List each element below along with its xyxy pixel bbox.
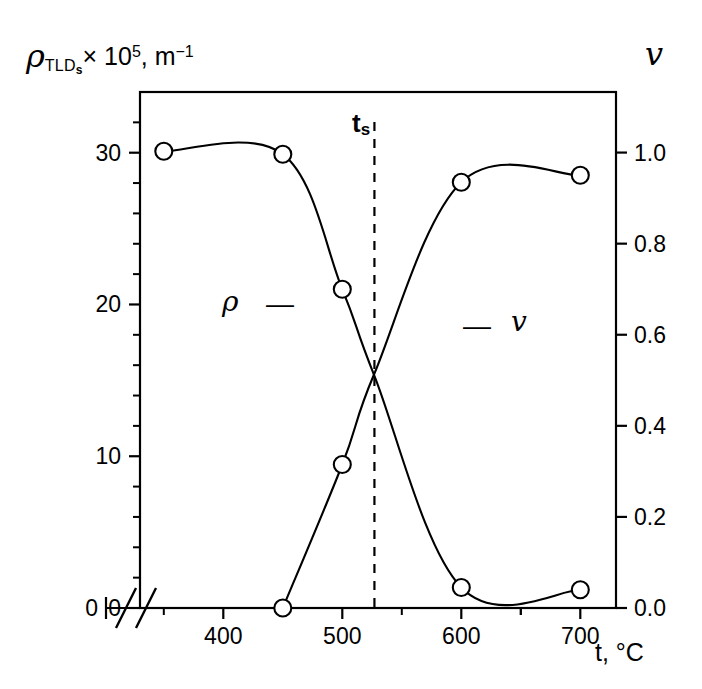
axis-ticks [129, 122, 627, 619]
data-point-rho-700 [572, 581, 589, 598]
chart-figure: ρTLDs× 105, m−1 v t, °C ts ρ — — v 01020… [0, 0, 702, 689]
plot-area [0, 0, 702, 689]
series-line-rho [164, 142, 581, 605]
series-line-v [283, 165, 581, 608]
data-point-rho-450 [274, 146, 291, 163]
data-point-rho-600 [453, 579, 470, 596]
data-point-v-600 [453, 174, 470, 191]
data-point-rho-350 [155, 143, 172, 160]
data-point-v-450 [274, 600, 291, 617]
data-point-rho-500 [334, 281, 351, 298]
data-series [155, 142, 589, 616]
data-point-v-700 [572, 167, 589, 184]
data-point-v-500 [334, 456, 351, 473]
